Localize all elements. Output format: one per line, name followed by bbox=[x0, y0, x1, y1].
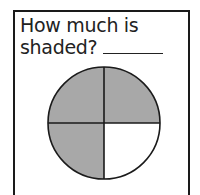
question-text: How much is shaded? bbox=[20, 14, 163, 58]
question-line-2: shaded? bbox=[20, 36, 97, 58]
fraction-circle bbox=[46, 65, 162, 181]
answer-blank[interactable] bbox=[103, 53, 163, 54]
question-line-1: How much is bbox=[20, 14, 163, 36]
